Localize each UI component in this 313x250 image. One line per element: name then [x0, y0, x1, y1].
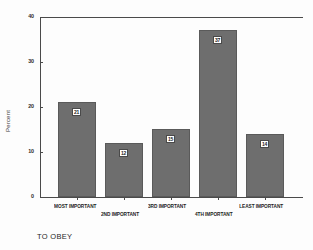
x-axis-label-least-important: LEAST IMPORTANT — [239, 203, 283, 209]
bar-chart-figure: Percent 0 10 20 30 40 21 12 15 37 14 MOS… — [0, 0, 313, 250]
x-tick-mark-2nd-important — [124, 197, 125, 200]
x-tick-mark-3rd-important — [171, 197, 172, 200]
bar-value-label-4th-important: 37 — [213, 36, 222, 44]
bar-most-important — [58, 102, 96, 197]
x-axis-label-3rd-important: 3RD IMPORTANT — [148, 203, 186, 209]
y-tick-30: 30 — [0, 62, 40, 63]
y-tick-label-10: 10 — [28, 148, 34, 154]
y-tick-10: 10 — [0, 152, 40, 153]
y-tick-20: 20 — [0, 107, 40, 108]
x-tick-mark-4th-important — [218, 197, 219, 200]
bar-value-label-least-important: 14 — [260, 140, 269, 148]
x-axis-label-4th-important: 4TH IMPORTANT — [195, 211, 233, 217]
y-tick-label-40: 40 — [28, 13, 34, 19]
x-tick-mark-least-important — [265, 197, 266, 200]
figure-caption: TO OBEY — [37, 232, 72, 241]
x-axis-label-2nd-important: 2ND IMPORTANT — [101, 211, 139, 217]
bar-value-label-2nd-important: 12 — [119, 149, 128, 157]
y-tick-label-0: 0 — [31, 193, 34, 199]
y-tick-40: 40 — [0, 17, 40, 18]
y-tick-label-20: 20 — [28, 103, 34, 109]
y-tick-0: 0 — [0, 197, 40, 198]
bar-value-label-most-important: 21 — [72, 108, 81, 116]
y-tick-label-30: 30 — [28, 58, 34, 64]
x-axis-label-most-important: MOST IMPORTANT — [54, 203, 96, 209]
bar-value-label-3rd-important: 15 — [166, 135, 175, 143]
x-tick-mark-most-important — [77, 197, 78, 200]
y-axis-title: Percent — [5, 91, 11, 151]
bar-4th-important — [199, 30, 237, 197]
